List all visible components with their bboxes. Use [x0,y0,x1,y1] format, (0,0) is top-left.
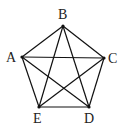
edge-ab [22,26,63,57]
vertex-a [20,55,23,58]
edge-be [39,26,63,107]
vertex-label-d: D [84,111,94,126]
edge-ce [39,58,104,107]
vertex-d [87,105,90,108]
edge-cd [89,58,104,107]
edges-group [22,26,104,107]
edge-ac [22,57,104,58]
edge-ea [22,57,39,107]
vertex-label-e: E [33,111,42,126]
edge-ad [22,57,89,107]
vertex-label-b: B [58,7,67,22]
labels-group: A B C D E [6,7,117,126]
vertex-label-c: C [108,51,117,66]
edge-bd [63,26,89,107]
vertex-c [102,56,105,59]
vertex-b [61,24,64,27]
vertex-e [37,105,40,108]
vertex-label-a: A [6,50,17,65]
edge-bc [63,26,104,58]
pentagon-graph-diagram: A B C D E [0,0,123,129]
